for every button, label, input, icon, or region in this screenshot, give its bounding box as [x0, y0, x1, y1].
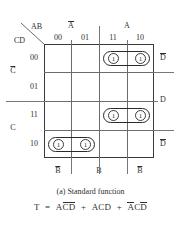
- cell-text-r10-c01: 1: [81, 141, 90, 149]
- right-group-label-d-bar-top: D: [160, 53, 166, 62]
- equation-term-3: ACD: [126, 202, 148, 212]
- row-header-01: 01: [30, 82, 38, 91]
- right-group-d-bar-bottom-text: D: [160, 139, 166, 148]
- cell-text-r11-c11: 1: [109, 112, 118, 120]
- left-group-c-text: C: [10, 123, 15, 132]
- column-header-11: 11: [109, 33, 117, 42]
- term3-part3: D: [140, 202, 147, 213]
- term3-part1: A: [127, 202, 134, 213]
- right-group-d-text: D: [160, 95, 166, 104]
- row-header-00: 00: [30, 53, 38, 62]
- column-header-01: 01: [81, 33, 89, 42]
- top-group-a-text: A: [124, 21, 130, 30]
- cell-value-r11-c10: 1: [135, 110, 146, 121]
- top-group-label-a: A: [124, 21, 130, 30]
- top-group-label-a-bar: A: [68, 21, 74, 30]
- term1-part3: D: [69, 202, 76, 213]
- cell-text-r11-c10: 1: [136, 112, 145, 120]
- right-group-d-bar-top-text: D: [160, 53, 166, 62]
- cell-text-r10-c00: 1: [54, 141, 63, 149]
- cell-value-r11-c11: 1: [108, 110, 119, 121]
- cell-value-r10-c00: 1: [53, 139, 64, 150]
- row-header-10: 10: [30, 139, 38, 148]
- equation-plus-2: +: [115, 202, 124, 212]
- equation-term-1: ACD: [55, 202, 79, 212]
- equation-term-2: ACD: [91, 202, 115, 212]
- karnaugh-map-figure: AB CD A A 00 01 11 10 C C 00 01 11 10 D …: [0, 0, 181, 228]
- bottom-group-label-b-bar-left: B: [55, 166, 60, 175]
- figure-equation: T = ACD + ACD + ACD: [0, 202, 181, 213]
- bottom-group-b-bar-right-text: B: [137, 166, 142, 175]
- column-header-10: 10: [136, 33, 144, 42]
- right-group-label-d: D: [160, 95, 166, 104]
- corner-label-cd: CD: [14, 36, 25, 45]
- left-group-label-c: C: [10, 123, 15, 132]
- figure-caption: (a) Standard function: [0, 187, 181, 197]
- column-header-00: 00: [54, 33, 62, 42]
- term2-part3: D: [105, 202, 112, 212]
- cell-text-r00-c10: 1: [136, 55, 145, 63]
- bottom-group-label-b-bar-right: B: [137, 166, 142, 175]
- equation-equals: =: [43, 202, 52, 212]
- equation-plus-1: +: [79, 202, 88, 212]
- left-group-label-c-bar: C: [10, 66, 15, 75]
- grid-col-line-2: [99, 44, 100, 158]
- right-group-label-d-bar-bottom: D: [160, 139, 166, 148]
- term1-part1: A: [56, 202, 63, 212]
- cell-value-r10-c01: 1: [80, 139, 91, 150]
- bottom-group-b-bar-left-text: B: [55, 166, 60, 175]
- cell-value-r00-c10: 1: [135, 53, 146, 64]
- equation-lhs: T: [33, 202, 41, 212]
- left-group-c-bar-text: C: [10, 66, 15, 75]
- top-group-a-bar-text: A: [68, 21, 74, 30]
- row-header-11: 11: [30, 110, 38, 119]
- cell-value-r00-c11: 1: [108, 53, 119, 64]
- cell-text-r00-c11: 1: [109, 55, 118, 63]
- corner-label-ab: AB: [31, 22, 42, 31]
